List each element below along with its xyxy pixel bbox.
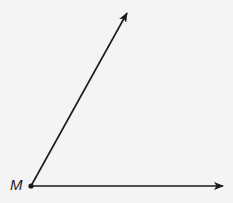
- upper-ray: [31, 13, 127, 186]
- vertex-label: M: [10, 176, 23, 193]
- vertex-point: [28, 183, 33, 188]
- angle-diagram: [0, 0, 233, 203]
